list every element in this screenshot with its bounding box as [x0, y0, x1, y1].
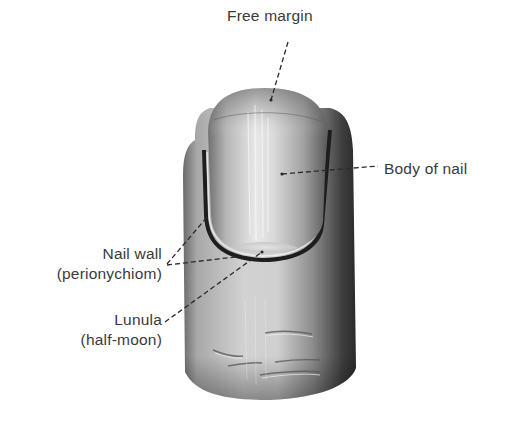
- free-margin-point: [269, 98, 272, 101]
- lunula-sublabel: (half-moon): [20, 330, 162, 349]
- finger-illustration: [0, 0, 510, 425]
- body-of-nail-label: Body of nail: [384, 159, 467, 178]
- free-margin-label: Free margin: [227, 6, 313, 25]
- fingernail-diagram: Free margin Body of nail Nail wall (peri…: [0, 0, 510, 425]
- nail-wall-label: Nail wall: [20, 244, 162, 263]
- nail-body: [208, 88, 327, 252]
- nail-wall-sublabel: (perionychiom): [20, 264, 162, 283]
- lunula-label: Lunula: [20, 310, 162, 329]
- lunula-point: [260, 250, 263, 253]
- body-of-nail-point: [280, 172, 283, 175]
